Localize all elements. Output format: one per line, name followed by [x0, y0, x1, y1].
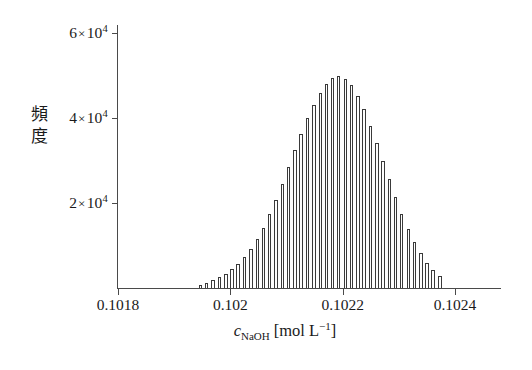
x-axis-tick-label: 0.102: [213, 297, 248, 313]
histogram-bar: [325, 84, 328, 288]
histogram-bar: [299, 134, 302, 288]
y-axis-line: [117, 25, 118, 289]
plot-area: [118, 25, 500, 288]
x-axis-title-unit-close: ]: [331, 321, 337, 340]
histogram-bar: [211, 280, 214, 288]
y-axis-tick-label: 6×104: [0, 25, 108, 42]
histogram-bar: [243, 257, 246, 288]
histogram-bar: [407, 229, 410, 288]
histogram-bar: [394, 197, 397, 288]
x-axis-title-symbol: c: [234, 321, 241, 340]
histogram-bar: [362, 109, 365, 288]
histogram-bar: [369, 126, 372, 288]
histogram-bar: [375, 143, 378, 288]
histogram-bar: [356, 96, 359, 288]
histogram-bar: [425, 263, 428, 288]
histogram-bar: [256, 239, 259, 288]
histogram-bar: [381, 161, 384, 288]
histogram-bar: [262, 228, 265, 288]
x-axis-tick-label: 0.1024: [434, 297, 477, 313]
x-axis-title-unit-exponent: −1: [319, 320, 331, 332]
histogram-bar: [312, 105, 315, 288]
histogram-bar: [218, 277, 221, 288]
histogram-bar: [413, 242, 416, 288]
histogram-bar: [344, 79, 347, 288]
y-axis-title: 頻度: [22, 105, 50, 149]
histogram-bar: [337, 76, 340, 288]
histogram-bar: [306, 118, 309, 288]
x-axis-tick-label: 0.1018: [97, 297, 140, 313]
histogram-bar: [236, 264, 239, 288]
histogram-bar: [319, 93, 322, 288]
x-axis-tick: [230, 289, 231, 295]
x-axis-title-subscript: NaOH: [241, 330, 270, 342]
x-axis-tick: [343, 289, 344, 295]
histogram-bar: [293, 150, 296, 288]
histogram-bar: [268, 214, 271, 288]
x-axis-title: cNaOH[mol L−1]: [0, 322, 532, 340]
y-axis-tick: [112, 203, 118, 204]
histogram-bar: [287, 167, 290, 288]
histogram-figure: 2×1044×1046×104 0.10180.1020.10220.1024 …: [0, 0, 532, 370]
histogram-bar: [281, 184, 284, 288]
histogram-bar: [230, 269, 233, 288]
x-axis-line: [117, 288, 501, 289]
x-axis-tick: [118, 289, 119, 295]
histogram-bar: [400, 214, 403, 288]
histogram-bar: [274, 200, 277, 288]
histogram-bar: [388, 179, 391, 288]
y-axis-tick: [112, 118, 118, 119]
histogram-bar: [438, 276, 441, 288]
y-axis-tick: [112, 33, 118, 34]
y-axis-tick-label: 2×104: [0, 195, 108, 212]
histogram-bar: [350, 85, 353, 288]
histogram-bar: [419, 253, 422, 288]
x-axis-tick: [455, 289, 456, 295]
histogram-bar: [331, 78, 334, 288]
histogram-bar: [224, 274, 227, 288]
y-axis-tick-label: 4×104: [0, 110, 108, 127]
histogram-bar: [431, 270, 434, 288]
x-axis-tick-label: 0.1022: [321, 297, 364, 313]
x-axis-title-unit-open: [mol L: [270, 321, 319, 340]
histogram-bars: [118, 25, 500, 288]
histogram-bar: [249, 249, 252, 288]
